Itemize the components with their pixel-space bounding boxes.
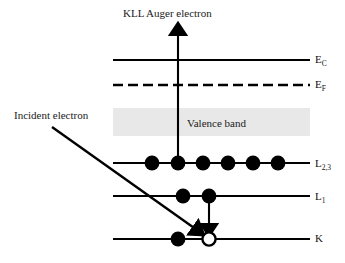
level-label-ec-main: E xyxy=(315,53,322,65)
level-label-ec: EC xyxy=(315,54,327,65)
electron-filled xyxy=(145,156,160,171)
diagram-svg xyxy=(0,0,345,263)
level-label-l1-main: L xyxy=(315,190,322,202)
electron-filled xyxy=(271,156,286,171)
electron-filled xyxy=(171,156,186,171)
core-hole-vacancy xyxy=(202,232,215,245)
diagram-title: KLL Auger electron xyxy=(123,8,212,19)
electron-filled xyxy=(196,156,211,171)
level-label-l23-sub: 2,3 xyxy=(322,163,331,172)
level-label-l1: L1 xyxy=(315,191,325,202)
level-label-l1-sub: 1 xyxy=(322,196,326,205)
level-label-ec-sub: C xyxy=(322,59,327,68)
valence-band-label: Valence band xyxy=(187,118,246,129)
electron-filled xyxy=(171,232,186,247)
incident-electron-label: Incident electron xyxy=(14,110,88,121)
level-label-k-main: K xyxy=(315,232,323,244)
level-label-ef: EF xyxy=(315,79,326,90)
level-label-ef-sub: F xyxy=(322,84,326,93)
incident-electron-arrow xyxy=(52,127,197,230)
auger-diagram-canvas: KLL Auger electron Valence band Incident… xyxy=(0,0,345,263)
level-label-l23: L2,3 xyxy=(315,158,331,169)
electron-filled xyxy=(202,189,217,204)
level-label-l23-main: L xyxy=(315,157,322,169)
electron-filled xyxy=(176,189,191,204)
electron-filled xyxy=(221,156,236,171)
level-label-k: K xyxy=(315,233,323,244)
level-label-ef-main: E xyxy=(315,78,322,90)
electron-filled xyxy=(246,156,261,171)
